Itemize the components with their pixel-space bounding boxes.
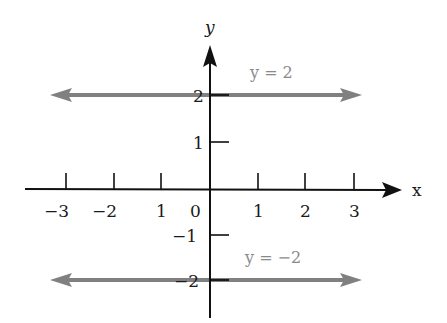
y-axis-label: y: [204, 17, 215, 37]
x-axis: [25, 173, 402, 198]
equation-label-lower: y = −2: [244, 248, 301, 267]
y-tick-label: 2: [193, 86, 204, 106]
y-tick-label: −2: [174, 271, 199, 291]
line-y-equals-2: [50, 88, 362, 102]
y-tick-label: −1: [172, 226, 197, 246]
equation-label-upper: y = 2: [249, 63, 293, 82]
chart-svg: y x −3 −2 1 0 1 2 3 2 1 −1 −2 y = 2 y = …: [0, 0, 447, 323]
origin-label: 0: [190, 201, 201, 221]
x-tick-label: 2: [300, 201, 311, 221]
line-y-equals-neg2: [50, 273, 362, 287]
y-axis: [203, 45, 229, 318]
x-tick-label: −2: [92, 201, 117, 221]
x-tick-label: 1: [156, 201, 167, 221]
coordinate-plane-chart: y x −3 −2 1 0 1 2 3 2 1 −1 −2 y = 2 y = …: [0, 0, 447, 323]
x-tick-label: −3: [44, 201, 69, 221]
x-tick-label: 1: [253, 201, 264, 221]
x-tick-label: 3: [349, 201, 360, 221]
y-tick-label: 1: [193, 133, 204, 153]
x-axis-label: x: [412, 180, 422, 200]
